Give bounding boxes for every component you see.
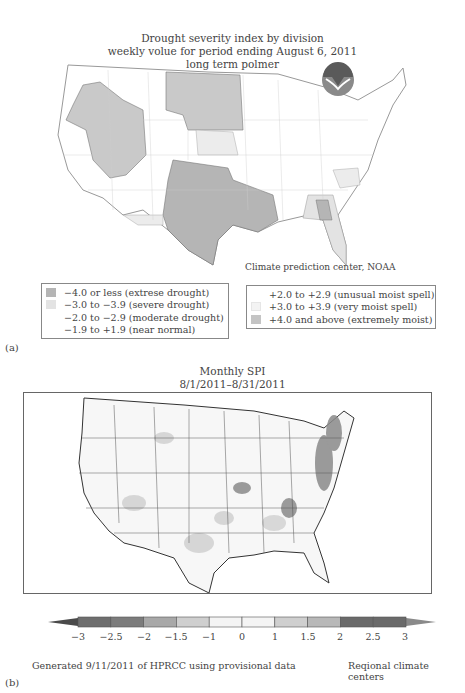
- colorbar-tick: −2.5: [99, 631, 122, 642]
- legend-swatch-very-moist: [251, 302, 261, 311]
- colorbar-tick: −3: [71, 631, 85, 642]
- noaa-logo-icon: [322, 62, 354, 96]
- legend-row: +2.0 to +2.9 (unusual moist spell): [251, 288, 429, 301]
- spi-map-frame: [23, 392, 432, 594]
- spi-colorbar: [48, 616, 436, 628]
- drought-legend: −4.0 or less (extrese drought) −3.0 to −…: [41, 283, 229, 339]
- moisture-legend: +2.0 to +2.9 (unusual moist spell) +3.0 …: [246, 285, 436, 329]
- source-credit: Reqional climate centers: [348, 660, 465, 682]
- legend-label: +3.0 to +3.9 (very moist spell): [269, 301, 417, 312]
- colorbar-tick: 1: [272, 631, 278, 642]
- colorbar-tick: 3: [402, 631, 408, 642]
- panel-label-b: (b): [5, 677, 19, 688]
- legend-row: +4.0 and above (extremely moist): [251, 313, 429, 326]
- colorbar-tick: 0: [239, 631, 245, 642]
- title-line-1: Drought severity index by division: [0, 32, 465, 45]
- legend-row: −3.0 to −3.9 (severe drought): [46, 299, 222, 312]
- legend-swatch-extremely-moist: [251, 315, 261, 324]
- colorbar-tick: 2.5: [365, 631, 380, 642]
- generated-note: Generated 9/11/2011 of HPRCC using provi…: [32, 660, 296, 671]
- colorbar-tick: 1.5: [300, 631, 315, 642]
- colorbar-tick: −2: [137, 631, 151, 642]
- colorbar-right-arrow: [406, 618, 436, 626]
- legend-swatch-severe-drought: [46, 300, 56, 309]
- legend-row: −1.9 to +1.9 (near normal): [46, 324, 222, 337]
- legend-label: −3.0 to −3.9 (severe drought): [64, 299, 209, 310]
- legend-swatch-near-normal: [46, 325, 56, 334]
- spi-map-title: Monthly SPI 8/1/2011–8/31/2011: [0, 365, 465, 391]
- legend-label: +2.0 to +2.9 (unusual moist spell): [269, 289, 434, 300]
- drought-severity-map: [28, 60, 465, 270]
- noaa-credit: Climate prediction center, NOAA: [245, 262, 395, 272]
- legend-swatch-unusual-moist: [251, 290, 261, 299]
- spi-map: [24, 393, 432, 594]
- legend-label: −4.0 or less (extrese drought): [64, 287, 209, 298]
- title-line-2: 8/1/2011–8/31/2011: [0, 378, 465, 391]
- colorbar-tick: −1.5: [164, 631, 187, 642]
- colorbar-tick: 2: [337, 631, 343, 642]
- legend-row: +3.0 to +3.9 (very moist spell): [251, 301, 429, 314]
- legend-swatch-moderate-drought: [46, 313, 56, 322]
- legend-row: −4.0 or less (extrese drought): [46, 286, 222, 299]
- title-line-1: Monthly SPI: [0, 365, 465, 378]
- legend-label: −2.0 to −2.9 (moderate drought): [64, 312, 224, 323]
- legend-label: +4.0 and above (extremely moist): [269, 314, 432, 325]
- colorbar-left-arrow: [48, 618, 78, 626]
- title-line-2: weekly volue for period ending August 6,…: [0, 45, 465, 58]
- panel-label-a: (a): [5, 342, 19, 353]
- colorbar-tick: −1: [202, 631, 216, 642]
- legend-label: −1.9 to +1.9 (near normal): [64, 324, 195, 335]
- legend-row: −2.0 to −2.9 (moderate drought): [46, 311, 222, 324]
- legend-swatch-extreme-drought: [46, 288, 56, 297]
